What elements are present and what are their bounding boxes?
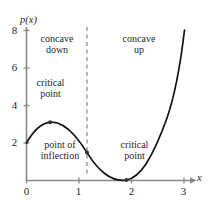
x-tick-label-1: 1 bbox=[71, 185, 86, 197]
annotation-concave-down: concave down bbox=[28, 33, 86, 55]
local-minimum-point-marker bbox=[124, 178, 128, 182]
y-axis-label: p(x) bbox=[20, 14, 37, 25]
annotation-critical-point-right: critical point bbox=[111, 139, 158, 161]
annotation-point-of-inflection: point of inflection bbox=[32, 139, 88, 161]
y-tick-label-2: 2 bbox=[8, 136, 21, 148]
annotation-concave-up: concave up bbox=[110, 33, 168, 55]
y-tick-label-4: 4 bbox=[8, 99, 21, 111]
local-maximum-point-marker bbox=[48, 120, 52, 124]
y-tick-label-6: 6 bbox=[8, 61, 21, 73]
y-tick-label-8: 8 bbox=[8, 24, 21, 36]
x-tick-label-2: 2 bbox=[124, 185, 139, 197]
x-tick-label-3: 3 bbox=[176, 185, 191, 197]
x-tick-label-0: 0 bbox=[19, 185, 34, 197]
x-axis-arrow-icon bbox=[190, 177, 197, 183]
x-axis-label: x bbox=[197, 172, 202, 183]
annotation-critical-point-left: critical point bbox=[27, 77, 74, 99]
figure-caption bbox=[6, 198, 156, 208]
figure-container: p(x) x 8 6 4 2 0 1 2 3 concave down conc… bbox=[0, 0, 208, 209]
plot-canvas bbox=[0, 0, 208, 209]
